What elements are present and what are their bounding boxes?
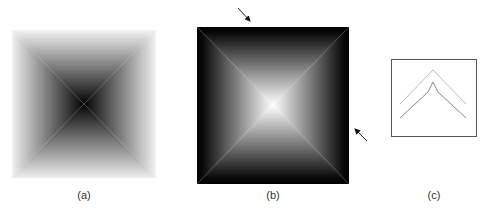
panel-c-label: (c) (414, 189, 454, 201)
panel-c-upper-line (400, 70, 466, 104)
annotation-overlay (0, 0, 488, 211)
panel-c-lower-line (400, 82, 466, 118)
arrow-icon-top (238, 8, 250, 21)
arrow-icon-right (355, 129, 367, 141)
